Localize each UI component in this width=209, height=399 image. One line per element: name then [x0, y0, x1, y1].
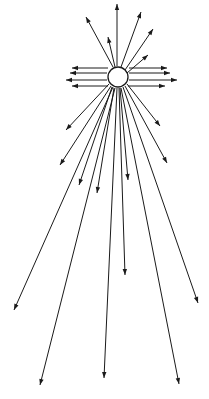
arrowhead-icon [148, 29, 153, 35]
arrowhead-icon [137, 12, 141, 18]
rays-group [14, 4, 198, 385]
arrowhead-icon [171, 78, 177, 82]
arrow [129, 78, 177, 82]
arrowhead-icon [70, 71, 76, 75]
arrowhead-icon [161, 66, 167, 70]
arrow-shaft [104, 88, 117, 378]
arrowhead-icon [115, 4, 119, 10]
arrowhead-icon [164, 71, 170, 75]
arrow [125, 29, 153, 70]
arrow [79, 87, 112, 185]
arrow-shaft [125, 86, 167, 163]
arrow [129, 71, 170, 75]
arrowhead-icon [159, 84, 165, 88]
arrow [115, 4, 119, 66]
source-circle [108, 67, 128, 87]
arrow [72, 84, 108, 88]
arrowhead-icon [86, 17, 91, 23]
arrow [119, 88, 127, 275]
arrow-shaft [121, 12, 141, 67]
arrow [125, 86, 167, 163]
arrow [72, 66, 108, 70]
arrow-shaft [79, 87, 112, 185]
arrowhead-icon [60, 159, 65, 165]
arrowhead-icon [66, 78, 72, 82]
arrow [14, 87, 113, 310]
arrowhead-icon [14, 304, 18, 310]
upper-rays [86, 4, 153, 73]
arrowhead-icon [39, 379, 43, 385]
arrow-shaft [123, 87, 198, 303]
arrow [123, 87, 198, 303]
arrowhead-icon [162, 157, 167, 163]
arrow-shaft [40, 88, 115, 385]
arrowhead-icon [79, 179, 83, 185]
arrowhead-icon [123, 269, 127, 275]
arrowhead-icon [72, 84, 78, 88]
arrow [128, 84, 165, 88]
arrow-shaft [14, 87, 113, 310]
arrowhead-icon [96, 187, 100, 193]
right-horizontal-rays [128, 66, 177, 88]
left-horizontal-rays [66, 66, 108, 88]
lower-beam-rays [14, 84, 198, 385]
arrow-shaft [125, 29, 153, 70]
arrow [121, 12, 141, 67]
arrowhead-icon [176, 378, 180, 384]
arrowhead-icon [102, 372, 106, 378]
radiation-diagram [0, 0, 209, 399]
arrow [39, 88, 115, 385]
arrowhead-icon [72, 66, 78, 70]
arrowhead-icon [194, 297, 198, 303]
arrow [127, 55, 148, 73]
arrow [70, 71, 107, 75]
arrow [66, 78, 107, 82]
